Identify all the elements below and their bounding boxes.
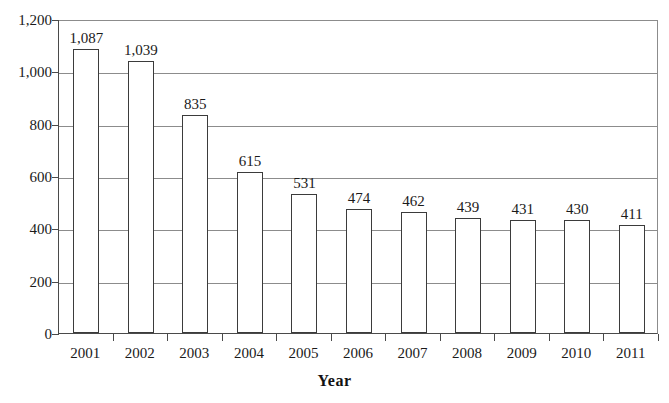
plot-area: 1,0871,039835615531474462439431430411	[58, 20, 658, 334]
bar-chart: 02004006008001,0001,200 1,0871,039835615…	[0, 0, 669, 403]
y-axis-tick-label: 600	[0, 170, 52, 185]
x-axis-tick-label: 2003	[179, 345, 209, 362]
bar-slot: 1,087	[59, 21, 114, 333]
x-axis-title: Year	[0, 372, 669, 390]
bar-slot: 1,039	[114, 21, 169, 333]
y-axis-tick-label: 200	[0, 275, 52, 290]
x-axis-tick-mark	[494, 334, 495, 341]
x-axis-tick-label: 2008	[452, 345, 482, 362]
x-axis-tick-mark	[385, 334, 386, 341]
bar[interactable]	[455, 218, 481, 333]
bar-value-label: 439	[457, 200, 480, 215]
bar-slot: 439	[441, 21, 496, 333]
y-axis: 02004006008001,0001,200	[0, 0, 52, 403]
x-axis-tick-mark	[440, 334, 441, 341]
bar-value-label: 474	[348, 191, 371, 206]
bar-value-label: 615	[239, 154, 262, 169]
bar[interactable]	[73, 49, 99, 333]
bar-value-label: 411	[621, 207, 643, 222]
bar-value-label: 431	[511, 202, 534, 217]
y-axis-tick-mark	[52, 334, 59, 335]
bar[interactable]	[510, 220, 536, 333]
y-axis-tick-label: 0	[0, 327, 52, 342]
x-axis-tick-label: 2006	[343, 345, 373, 362]
y-axis-tick-mark	[52, 20, 59, 21]
bar-slot: 835	[168, 21, 223, 333]
bar[interactable]	[564, 220, 590, 333]
y-axis-tick-mark	[52, 282, 59, 283]
bar-slot: 462	[386, 21, 441, 333]
bar-slot: 430	[550, 21, 605, 333]
y-axis-tick-mark	[52, 125, 59, 126]
y-axis-tick-mark	[52, 72, 59, 73]
bar[interactable]	[128, 61, 154, 333]
x-axis-tick-mark	[113, 334, 114, 341]
y-axis-tick-label: 800	[0, 118, 52, 133]
y-axis-tick-label: 400	[0, 222, 52, 237]
x-axis-tick-mark	[222, 334, 223, 341]
bar-value-label: 1,087	[69, 31, 103, 46]
bar-value-label: 462	[402, 194, 425, 209]
bar-value-label: 1,039	[124, 43, 158, 58]
x-axis-tick-mark	[603, 334, 604, 341]
x-axis-tick-label: 2011	[616, 345, 645, 362]
y-axis-tick-label: 1,000	[0, 65, 52, 80]
bar[interactable]	[346, 209, 372, 333]
bar-value-label: 430	[566, 202, 589, 217]
x-axis-tick-mark	[276, 334, 277, 341]
x-axis-tick-label: 2009	[507, 345, 537, 362]
bar-value-label: 835	[184, 97, 207, 112]
x-axis-tick-mark	[549, 334, 550, 341]
y-axis-tick-mark	[52, 229, 59, 230]
bar[interactable]	[237, 172, 263, 333]
bar-slot: 431	[495, 21, 550, 333]
x-axis-tick-mark	[658, 334, 659, 341]
bar-slot: 411	[604, 21, 659, 333]
x-axis-tick-mark	[331, 334, 332, 341]
bar-slot: 474	[332, 21, 387, 333]
x-axis-tick-mark	[167, 334, 168, 341]
bar-slot: 531	[277, 21, 332, 333]
x-axis-tick-label: 2005	[288, 345, 318, 362]
bar-slot: 615	[223, 21, 278, 333]
y-axis-tick-mark	[52, 177, 59, 178]
x-axis-tick-label: 2001	[70, 345, 100, 362]
y-axis-tick-label: 1,200	[0, 13, 52, 28]
x-axis-tick-label: 2004	[234, 345, 264, 362]
x-axis-tick-label: 2007	[398, 345, 428, 362]
x-axis-tick-label: 2002	[125, 345, 155, 362]
bar[interactable]	[182, 115, 208, 333]
x-axis-tick-label: 2010	[561, 345, 591, 362]
bar-value-label: 531	[293, 176, 316, 191]
bar[interactable]	[401, 212, 427, 333]
bar[interactable]	[619, 225, 645, 333]
bar[interactable]	[291, 194, 317, 333]
